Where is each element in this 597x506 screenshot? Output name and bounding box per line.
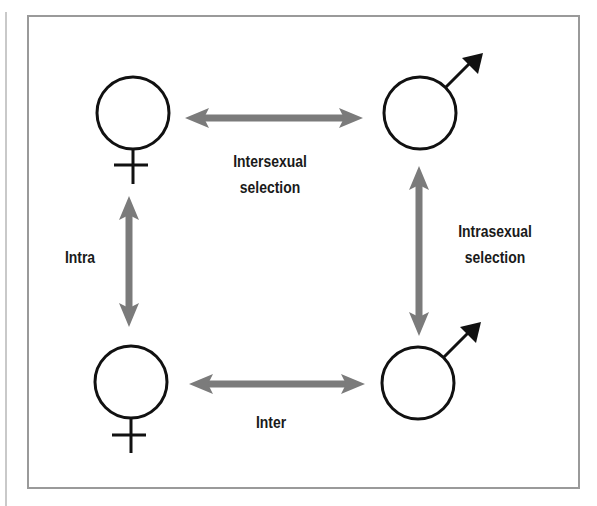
female-symbol-icon	[97, 77, 169, 184]
intra-double-arrow-icon	[119, 196, 139, 327]
inter-double-arrow-icon	[189, 374, 365, 394]
intrasexual-double-arrow-icon	[409, 166, 429, 336]
intersexual-label-line1: Intersexual	[221, 149, 319, 175]
male-symbol-icon	[382, 322, 481, 419]
intrasexual-label-line2: selection	[446, 245, 544, 271]
intersexual-double-arrow-icon	[185, 108, 363, 128]
intrasexual-label-line1: Intrasexual	[446, 219, 544, 245]
inter-label: Inter	[246, 410, 295, 436]
intra-label: Intra	[55, 245, 104, 271]
intersexual-label-line2: selection	[221, 175, 319, 201]
male-symbol-icon	[384, 53, 483, 149]
female-symbol-icon	[95, 346, 167, 453]
